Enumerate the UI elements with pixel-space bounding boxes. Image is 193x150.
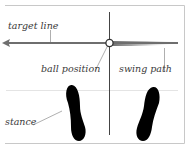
swing-path-label: swing path	[119, 64, 172, 74]
target-line-label: target line	[8, 21, 58, 31]
left-footprint-icon	[66, 85, 85, 141]
stance-leader	[33, 111, 62, 125]
target-line	[2, 39, 178, 47]
ball-position-label: ball position	[41, 64, 100, 74]
golf-setup-diagram: target line ball position swing path sta…	[0, 0, 193, 150]
golf-ball-icon	[106, 39, 113, 46]
stance-label: stance	[5, 117, 36, 127]
right-footprint-icon	[136, 87, 159, 141]
